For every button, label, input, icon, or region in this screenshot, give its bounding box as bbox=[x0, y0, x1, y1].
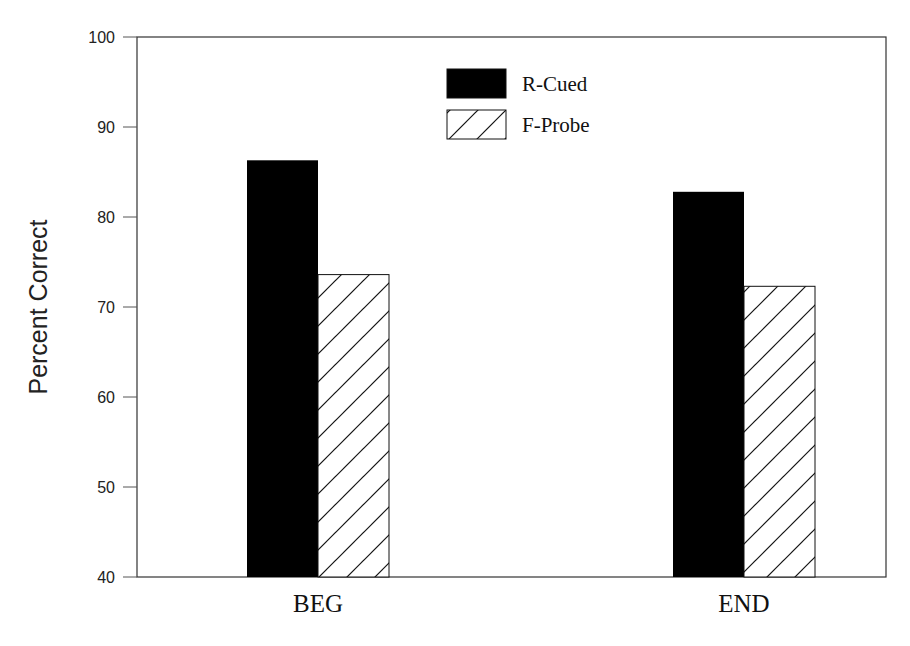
x-category-label: END bbox=[718, 590, 769, 617]
y-tick-label: 80 bbox=[97, 209, 115, 226]
bar-f-probe-end bbox=[744, 286, 815, 577]
legend-label: R-Cued bbox=[522, 72, 588, 96]
y-axis-label: Percent Correct bbox=[24, 219, 52, 394]
labels: Percent Correct bbox=[24, 219, 52, 394]
legend: R-CuedF-Probe bbox=[447, 69, 590, 139]
legend-label: F-Probe bbox=[522, 113, 590, 137]
legend-swatch bbox=[447, 110, 506, 139]
y-tick-label: 60 bbox=[97, 389, 115, 406]
y-tick-label: 70 bbox=[97, 299, 115, 316]
bars: BEGEND bbox=[247, 160, 815, 617]
x-category-label: BEG bbox=[293, 590, 343, 617]
bar-chart: 405060708090100 BEGEND Percent Correct R… bbox=[0, 0, 910, 646]
y-tick-label: 90 bbox=[97, 119, 115, 136]
y-tick-label: 100 bbox=[88, 29, 115, 46]
legend-swatch bbox=[447, 69, 506, 98]
y-tick-label: 40 bbox=[97, 569, 115, 586]
bar-r-cued-beg bbox=[247, 160, 318, 577]
bar-r-cued-end bbox=[673, 192, 744, 577]
bar-f-probe-beg bbox=[318, 275, 389, 577]
y-tick-label: 50 bbox=[97, 479, 115, 496]
